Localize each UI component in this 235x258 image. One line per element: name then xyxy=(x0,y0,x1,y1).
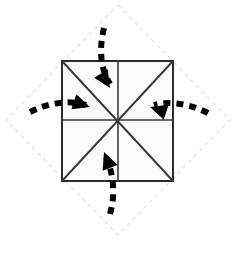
figure-canvas xyxy=(0,0,235,258)
fold-diagram xyxy=(0,0,235,258)
